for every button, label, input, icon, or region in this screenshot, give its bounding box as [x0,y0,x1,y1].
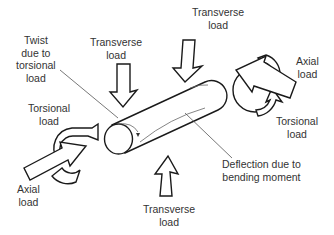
label-line: bending moment [222,171,301,184]
label-line: load [17,196,40,209]
transverse-load-arrow-top-right [173,40,202,82]
label-line: load [143,216,195,229]
label-line: Transverse [143,203,195,216]
label-deflection-due-to-bending-moment: Deflection due to bending moment [222,158,301,183]
label-line: due to [16,47,56,60]
label-transverse-load-top-left: Transverse load [90,36,142,61]
label-twist-due-to-torsional-load: Twist due to torsional load [16,34,56,84]
label-torsional-load-right: Torsional load [276,115,318,140]
label-line: load [90,49,142,62]
transverse-load-arrow-bottom [155,156,178,196]
label-line: Axial [296,55,319,68]
label-transverse-load-top-right: Transverse load [192,6,244,31]
label-axial-load-left: Axial load [17,183,40,208]
label-line: Transverse [192,6,244,19]
label-line: load [28,115,70,128]
label-line: Transverse [90,36,142,49]
label-line: load [276,128,318,141]
label-line: Deflection due to [222,158,301,171]
label-line: load [16,72,56,85]
label-line: torsional [16,59,56,72]
label-line: Twist [16,34,56,47]
label-line: Axial [17,183,40,196]
label-line: Torsional [276,115,318,128]
transverse-load-arrow-top-left [110,64,137,107]
label-line: load [296,68,319,81]
label-line: load [192,19,244,32]
label-torsional-load-left: Torsional load [28,102,70,127]
label-transverse-load-bottom: Transverse load [143,203,195,228]
label-axial-load-right: Axial load [296,55,319,80]
label-line: Torsional [28,102,70,115]
deflection-leader-line [185,113,232,158]
